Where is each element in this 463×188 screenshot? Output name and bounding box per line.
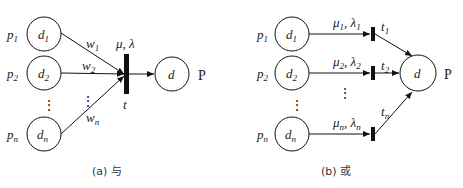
svg-text:d1: d1 (38, 27, 49, 44)
transition-label-t1: t1 (381, 19, 389, 36)
arc-t1-output (375, 34, 412, 56)
ellipsis-places: ⋮ (290, 98, 304, 113)
svg-text:p1: p1 (256, 27, 268, 44)
svg-text:p1: p1 (6, 27, 18, 44)
svg-text:d2: d2 (286, 66, 298, 83)
transition-t1 (371, 27, 375, 41)
svg-text:d1: d1 (286, 27, 297, 44)
output-token-label: d (414, 66, 421, 81)
svg-text:p2: p2 (6, 66, 19, 83)
svg-text:dn: dn (37, 127, 49, 144)
rates-1: μ1, λ1 (332, 15, 361, 32)
ellipsis-rates: ⋮ (338, 86, 352, 101)
caption-b: (b) 或 (321, 165, 351, 178)
output-place-label: P (444, 67, 452, 82)
weight-w1: w1 (86, 36, 99, 53)
weight-wn: wn (86, 110, 100, 127)
svg-text:pn: pn (6, 127, 19, 144)
svg-text:p2: p2 (256, 66, 269, 83)
diagram-b-or: p1 d1 p2 d2 ⋮ pn dn μ1, λ1 μ2, λ2 ⋮ μn, … (256, 15, 452, 178)
transition-label-t2: t2 (381, 58, 390, 75)
svg-text:d2: d2 (38, 66, 50, 83)
output-token-label: d (168, 67, 175, 82)
rates-n: μn, λn (332, 115, 361, 132)
transition-tn (371, 127, 375, 141)
transition-t (124, 54, 129, 94)
petri-net-figure: p1 d1 p2 d2 ⋮ pn dn w1 w2 ⋮ wn μ, λ t (0, 0, 463, 188)
place-p2: p2 d2 (256, 56, 309, 90)
rates-2: μ2, λ2 (332, 54, 361, 71)
output-place: d P (400, 55, 452, 91)
svg-text:dn: dn (285, 127, 297, 144)
svg-text:pn: pn (256, 127, 269, 144)
output-place-label: P (198, 68, 206, 83)
output-place: d P (155, 57, 206, 91)
diagram-a-and: p1 d1 p2 d2 ⋮ pn dn w1 w2 ⋮ wn μ, λ t (6, 17, 206, 178)
ellipsis-weights: ⋮ (81, 94, 95, 109)
place-pn: pn dn (6, 117, 61, 151)
transition-label: t (123, 97, 127, 112)
place-p2: p2 d2 (6, 56, 61, 90)
transition-rates: μ, λ (115, 36, 135, 51)
weight-w2: w2 (82, 58, 96, 75)
caption-a: (a) 与 (92, 165, 122, 178)
place-pn: pn dn (256, 117, 309, 151)
ellipsis-places: ⋮ (42, 98, 56, 113)
place-p1: p1 d1 (256, 17, 309, 51)
place-p1: p1 d1 (6, 17, 61, 51)
transition-t2 (371, 66, 375, 80)
